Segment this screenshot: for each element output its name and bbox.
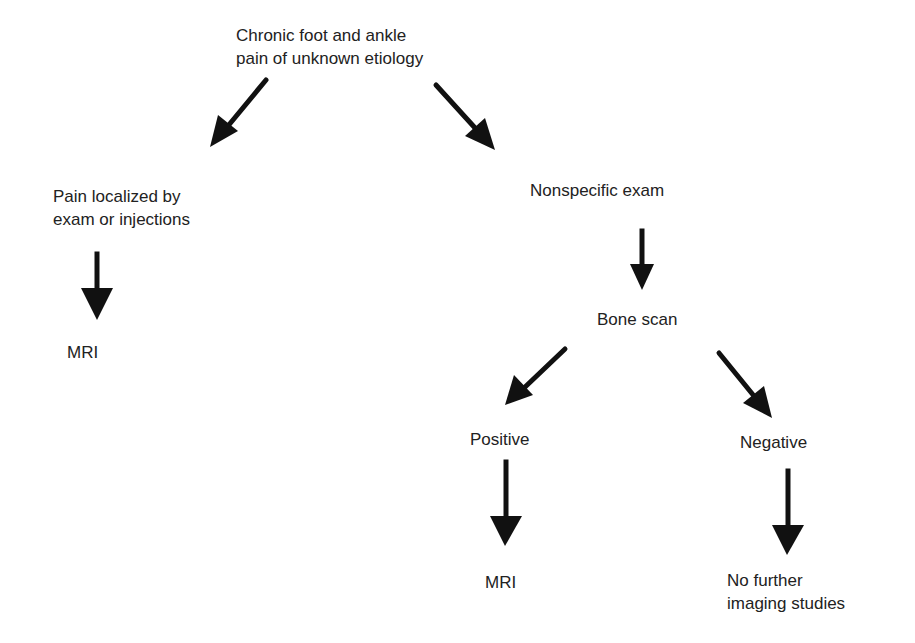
arrows-layer — [0, 0, 915, 643]
node-positive: Positive — [470, 428, 530, 451]
node-mri-left-label: MRI — [67, 341, 98, 364]
node-no-further-imaging: No further imaging studies — [727, 569, 845, 615]
node-chronic-pain: Chronic foot and ankle pain of unknown e… — [236, 24, 423, 70]
arrow-nonspecific-to-bonescan-icon — [630, 231, 654, 290]
node-no-further-imaging-line-2: imaging studies — [727, 592, 845, 615]
arrow-positive-to-mri-icon — [490, 462, 522, 546]
node-bone-scan-label: Bone scan — [597, 308, 677, 331]
node-pain-localized-line-2: exam or injections — [53, 208, 190, 231]
node-mri-right-label: MRI — [485, 571, 516, 594]
node-nonspecific-exam-label: Nonspecific exam — [530, 179, 664, 202]
node-pain-localized-line-1: Pain localized by — [53, 185, 190, 208]
arrow-root-to-localized-icon — [210, 80, 266, 147]
node-bone-scan: Bone scan — [597, 308, 677, 331]
node-pain-localized: Pain localized by exam or injections — [53, 185, 190, 231]
arrow-negative-to-nofurther-icon — [772, 471, 804, 555]
node-nonspecific-exam: Nonspecific exam — [530, 179, 664, 202]
node-negative: Negative — [740, 431, 807, 454]
node-mri-right: MRI — [485, 571, 516, 594]
node-mri-left: MRI — [67, 341, 98, 364]
arrow-localized-to-mri-icon — [81, 254, 113, 320]
arrow-root-to-nonspecific-icon — [436, 85, 495, 150]
arrow-bonescan-to-negative-icon — [719, 353, 772, 418]
node-chronic-pain-line-2: pain of unknown etiology — [236, 47, 423, 70]
node-negative-label: Negative — [740, 431, 807, 454]
node-chronic-pain-line-1: Chronic foot and ankle — [236, 24, 423, 47]
arrow-bonescan-to-positive-icon — [505, 349, 565, 405]
node-no-further-imaging-line-1: No further — [727, 569, 845, 592]
node-positive-label: Positive — [470, 428, 530, 451]
